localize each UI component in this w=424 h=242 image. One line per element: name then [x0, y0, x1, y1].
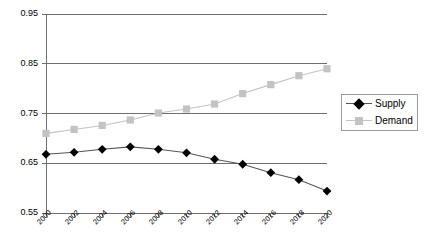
marker-supply-2008 [154, 145, 163, 154]
y-axis-label-3: 0.65 [4, 158, 38, 167]
marker-demand-2018 [295, 72, 302, 79]
marker-supply-2004 [98, 145, 107, 154]
legend-item-demand[interactable]: Demand [342, 112, 417, 129]
marker-supply-2020 [323, 187, 332, 196]
marker-demand-2002 [71, 126, 78, 133]
marker-demand-2014 [239, 90, 246, 97]
marker-supply-2000 [42, 150, 51, 159]
marker-demand-2008 [155, 109, 162, 116]
marker-supply-2006 [126, 142, 135, 151]
marker-supply-2002 [70, 148, 79, 157]
y-axis-label-2: 0.75 [4, 109, 38, 118]
y-axis-label-0: 0.95 [4, 9, 38, 18]
legend-marker-supply [353, 98, 364, 109]
legend-marker-demand [355, 117, 363, 125]
marker-demand-2016 [267, 81, 274, 88]
marker-supply-2018 [295, 175, 304, 184]
marker-supply-2012 [210, 155, 219, 164]
series-line-demand [46, 69, 327, 134]
y-axis-label-1: 0.85 [4, 59, 38, 68]
diamond-icon [346, 98, 372, 110]
marker-demand-2004 [99, 122, 106, 129]
legend-label-demand: Demand [372, 115, 413, 127]
square-icon [346, 115, 372, 127]
marker-supply-2014 [238, 160, 247, 169]
chart-legend: SupplyDemand [341, 94, 418, 131]
line-chart: 0.950.850.750.650.55 2000200220042006200… [0, 0, 424, 242]
marker-demand-2012 [211, 100, 218, 107]
marker-demand-2000 [42, 130, 49, 137]
marker-demand-2010 [183, 105, 190, 112]
marker-demand-2006 [127, 116, 134, 123]
marker-supply-2016 [266, 168, 275, 177]
marker-supply-2010 [182, 148, 191, 157]
legend-item-supply[interactable]: Supply [342, 95, 417, 112]
marker-demand-2020 [323, 65, 330, 72]
legend-label-supply: Supply [372, 98, 406, 110]
y-axis-label-4: 0.55 [4, 208, 38, 217]
